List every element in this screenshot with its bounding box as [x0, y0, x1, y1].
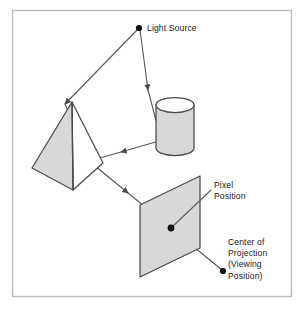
- label-cop-line-1: Center of: [228, 237, 265, 247]
- light-source-point: [136, 25, 142, 31]
- cylinder-top-ellipse: [156, 98, 194, 113]
- cylinder-object: [156, 98, 194, 156]
- label-cop-line-2: Projection: [228, 248, 268, 258]
- pixel-position-point: [168, 225, 175, 232]
- label-pixel-position-line-1: Pixel: [214, 180, 233, 190]
- label-pixel-position-line-2: Position: [214, 191, 246, 201]
- ray-tracing-diagram-canvas: Light Source Pixel Position Center of Pr…: [0, 0, 304, 314]
- label-cop-line-3: (Viewing: [228, 259, 262, 269]
- ray-tracing-figure: Light Source Pixel Position Center of Pr…: [0, 0, 304, 314]
- center-of-projection-point: [220, 268, 226, 274]
- label-light-source: Light Source: [147, 23, 197, 33]
- label-cop-line-4: Position): [228, 271, 263, 281]
